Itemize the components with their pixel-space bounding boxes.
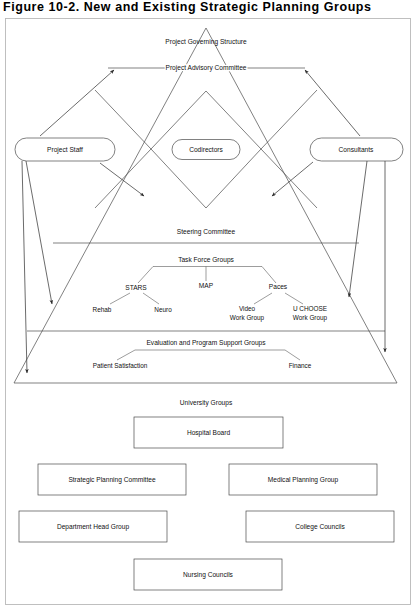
taskforce-node-paces: Paces — [269, 283, 288, 290]
taskforce-connector-right — [262, 267, 276, 284]
evaluation-leg-patient — [117, 350, 135, 360]
taskforce-leaf-uchoose: U CHOOSE — [293, 305, 327, 312]
evaluation-child-finance: Finance — [289, 362, 312, 369]
pill-consultants-label: Consultants — [339, 146, 375, 153]
arrow-staff-to-taskforce — [26, 161, 52, 304]
box-nursing-councils-label: Nursing Councils — [183, 571, 234, 579]
pill-codirectors-label: Codirectors — [189, 146, 223, 153]
right-diagonal-crossing-2 — [261, 90, 317, 149]
taskforce-leaf-neuro: Neuro — [154, 306, 172, 313]
figure-container: Figure 10-2. New and Existing Strategic … — [0, 0, 413, 607]
level-label-taskforce: Task Force Groups — [178, 256, 234, 264]
level-label-governing: Project Governing Structure — [165, 38, 247, 46]
box-strategic-planning-committee-label: Strategic Planning Committee — [68, 476, 156, 484]
taskforce-leaf-rehab: Rehab — [93, 306, 112, 313]
pill-project-staff-label: Project Staff — [47, 146, 83, 154]
paces-leg-video — [254, 293, 272, 304]
taskforce-connector-left — [138, 267, 153, 284]
right-diagonal-crossing — [261, 149, 317, 208]
box-hospital-board-label: Hospital Board — [187, 429, 231, 437]
evaluation-child-patient-satisfaction: Patient Satisfaction — [93, 362, 148, 369]
taskforce-leaf-video: Video — [239, 305, 256, 312]
level-label-steering: Steering Committee — [177, 228, 236, 236]
taskforce-node-map: MAP — [199, 282, 214, 289]
main-pyramid-outline — [14, 28, 397, 383]
box-medical-planning-group-label: Medical Planning Group — [268, 476, 339, 484]
university-groups-heading: University Groups — [180, 399, 233, 407]
arrow-staff-to-steering — [100, 163, 144, 196]
stars-leg-neuro — [143, 293, 159, 304]
diagram-canvas: Project Governing Structure Project Advi… — [0, 0, 413, 607]
stars-leg-rehab — [110, 293, 130, 304]
box-college-councils-label: College Councils — [295, 523, 345, 531]
level-label-advisory: Project Advisory Committee — [166, 64, 247, 72]
taskforce-leaf-uchoose-line2: Work Group — [293, 314, 328, 322]
arrow-staff-to-advisory — [40, 70, 114, 136]
arrow-consultants-to-advisory — [305, 70, 360, 136]
arrow-consultants-to-taskforce — [349, 161, 367, 297]
taskforce-node-stars: STARS — [125, 284, 147, 291]
level-label-evaluation: Evaluation and Program Support Groups — [146, 339, 266, 347]
box-department-head-group-label: Department Head Group — [57, 523, 130, 531]
evaluation-leg-finance — [285, 350, 300, 360]
arrow-staff-to-evaluation — [22, 161, 27, 373]
taskforce-leaf-video-line2: Work Group — [230, 314, 265, 322]
paces-leg-uchoose — [285, 293, 303, 304]
